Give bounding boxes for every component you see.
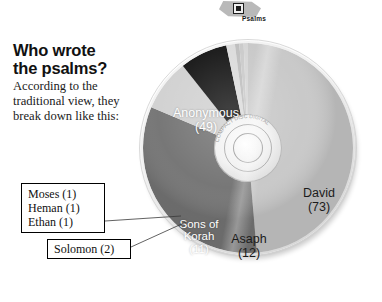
- slice-label-name: Anonymous: [163, 107, 249, 121]
- callout-line: Solomon (2): [54, 242, 114, 256]
- slice-label-name: Asaph: [220, 233, 278, 247]
- infographic-canvas: Psalms Who wrotethe psalms? According to…: [0, 0, 382, 302]
- callout-box-solomon: Solomon (2): [47, 239, 131, 259]
- page-title: Who wrotethe psalms?: [13, 41, 143, 78]
- slice-label-value: (49): [163, 121, 249, 135]
- slice-label-asaph: Asaph (12): [220, 233, 278, 260]
- slice-label-name2: Korah: [171, 230, 227, 242]
- slice-label-name: Sons of: [171, 218, 227, 230]
- slice-label-sons-of-korah: Sons of Korah (11): [171, 218, 227, 255]
- slice-label-value: (73): [288, 201, 350, 215]
- slice-label-value: (11): [171, 243, 227, 255]
- page-subtitle: According to the traditional view, they …: [13, 79, 141, 124]
- psalms-tag-label: Psalms: [242, 15, 266, 22]
- callout-line: Ethan (1): [28, 215, 99, 229]
- callout-box-minor-authors: Moses (1) Heman (1) Ethan (1): [21, 183, 105, 233]
- callout-line: Moses (1): [28, 187, 99, 201]
- slice-label-value: (12): [220, 247, 278, 261]
- slice-label-anonymous: Anonymous (49): [163, 107, 249, 134]
- slice-label-david: David (73): [288, 187, 350, 214]
- slice-label-name: David: [288, 187, 350, 201]
- square-dot-icon-center: [236, 6, 241, 11]
- callout-line: Heman (1): [28, 201, 99, 215]
- psalms-tag: Psalms: [219, 1, 281, 27]
